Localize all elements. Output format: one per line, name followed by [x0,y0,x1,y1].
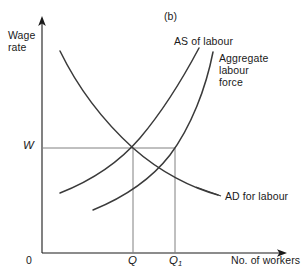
q1-tick-subscript: 1 [178,259,182,268]
y-axis [38,16,46,253]
as-of-labour-label: AS of labour [174,36,233,48]
y-axis-label-line1: Wage [8,30,35,42]
panel-label: (b) [164,11,177,23]
ad-label-leader-line [196,187,221,196]
labour-market-diagram: (b) Wage rate W 0 Q Q1 No. of workers AS… [0,0,304,275]
q1-tick-base: Q [169,254,178,266]
q-tick-label: Q [128,255,137,267]
diagram-canvas [0,0,304,275]
x-axis-label: No. of workers [231,255,300,267]
as-of-labour-curve [60,48,199,193]
aggregate-labour-force-label-line2: labour [219,65,249,77]
ad-for-labour-label: AD for labour [225,191,288,203]
origin-label: 0 [26,255,32,267]
aggregate-labour-force-label-line3: force [219,77,243,89]
wage-tick-label: W [23,140,34,152]
q1-tick-label: Q1 [169,255,182,268]
guide-lines [42,148,175,253]
ad-for-labour-curve [60,51,218,195]
aggregate-labour-force-label-line1: Aggregate [219,53,268,65]
y-axis-label-line2: rate [8,42,27,54]
